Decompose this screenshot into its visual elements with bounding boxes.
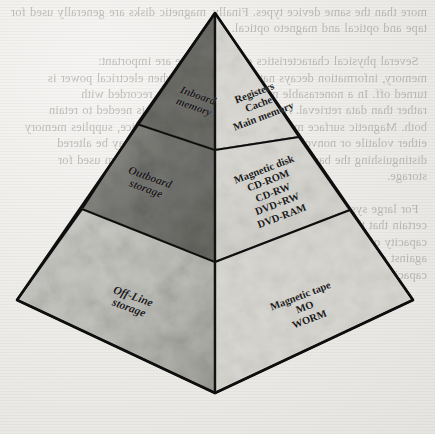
figure-canvas: more than the same device types. Finally… <box>0 0 435 434</box>
pyramid-diagram <box>0 0 435 434</box>
